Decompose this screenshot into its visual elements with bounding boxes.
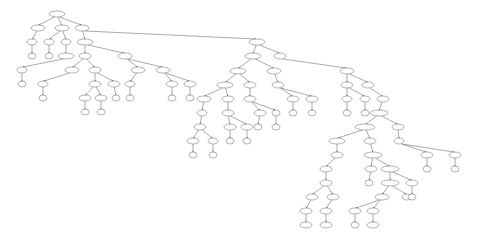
tree-edge (253, 45, 256, 53)
tree-edge (371, 144, 373, 152)
tree-node (244, 82, 256, 88)
tree-node (45, 53, 53, 59)
tree-edge (338, 130, 362, 138)
node-ellipse (254, 124, 262, 130)
tree-node (381, 180, 399, 186)
node-ellipse (224, 124, 236, 130)
node-ellipse (244, 96, 256, 102)
node-ellipse (355, 124, 375, 130)
tree-node (79, 95, 91, 101)
node-ellipse (254, 110, 266, 116)
tree-node (108, 81, 120, 87)
tree-node (377, 96, 389, 102)
tree-node (77, 39, 93, 45)
tree-edge (228, 116, 229, 124)
node-ellipse (408, 194, 416, 200)
tree-edge (253, 102, 275, 110)
tree-node (208, 138, 218, 144)
tree-node (222, 96, 234, 102)
tree-edge (193, 130, 198, 138)
tree-node (287, 96, 299, 102)
tree-edge (239, 59, 251, 68)
tree-edge (165, 73, 172, 81)
tree-edge (258, 116, 259, 124)
node-ellipse (166, 81, 178, 87)
tree-edge (230, 116, 246, 124)
node-ellipse (79, 53, 91, 59)
node-ellipse (392, 124, 404, 130)
tree-edge (392, 186, 406, 194)
node-ellipse (421, 152, 433, 158)
node-ellipse (360, 96, 370, 102)
tree-edge (63, 31, 66, 39)
tree-node (341, 82, 353, 88)
node-ellipse (300, 222, 312, 228)
node-ellipse (187, 138, 199, 144)
tree-node (89, 67, 101, 73)
node-ellipse (306, 96, 318, 102)
tree-node (58, 53, 74, 59)
tree-node (308, 110, 316, 116)
tree-node (365, 166, 377, 172)
tree-node (217, 82, 233, 88)
node-ellipse (327, 194, 339, 200)
tree-node (342, 96, 352, 102)
node-ellipse (75, 25, 89, 31)
tree-node (118, 53, 132, 59)
tree-edge (255, 59, 273, 68)
tree-node (340, 68, 354, 74)
tree-node (274, 53, 286, 59)
node-ellipse (31, 25, 45, 31)
node-ellipse (58, 53, 74, 59)
tree-node (355, 124, 375, 130)
tree-edge (200, 116, 201, 124)
node-ellipse (329, 138, 345, 144)
tree-edge (226, 74, 236, 82)
node-ellipse (362, 82, 374, 88)
tree-edge (60, 17, 82, 25)
node-ellipse (168, 95, 176, 101)
node-ellipse (365, 166, 377, 172)
tree-edge (402, 144, 426, 152)
tree-edge (306, 200, 310, 208)
tree-edge (128, 59, 162, 67)
tree-edge (369, 172, 370, 180)
tree-edge (205, 88, 223, 96)
tree-node (320, 208, 332, 214)
tree-node (289, 110, 297, 116)
node-ellipse (38, 81, 48, 87)
node-ellipse (217, 82, 233, 88)
tree-edge (44, 73, 69, 81)
tree-node (197, 96, 211, 102)
tree-edge (73, 59, 83, 67)
tree-edge (202, 130, 212, 138)
node-ellipse (367, 208, 379, 214)
node-ellipse (406, 180, 418, 186)
node-ellipse (89, 67, 101, 73)
tree-edge (87, 59, 95, 67)
tree-node (306, 96, 318, 102)
tree-edge (313, 186, 324, 194)
tree-edge (130, 73, 136, 81)
node-ellipse (349, 208, 361, 214)
node-ellipse (17, 67, 27, 73)
tree-edge (86, 87, 94, 95)
tree-edge (366, 116, 377, 124)
tree-edge (349, 74, 367, 82)
node-ellipse (361, 110, 369, 116)
node-ellipse (194, 124, 206, 130)
node-ellipse (351, 222, 359, 228)
tree-node (451, 166, 459, 172)
node-ellipse (45, 53, 53, 59)
tree-node (320, 222, 332, 228)
node-ellipse (44, 39, 54, 45)
tree-node (126, 95, 134, 101)
tree-node (166, 81, 178, 87)
tree-edge (374, 200, 381, 208)
tree-node (351, 222, 359, 228)
tree-node (38, 81, 48, 87)
node-ellipse (394, 138, 404, 144)
tree-node (226, 138, 234, 144)
node-ellipse (381, 180, 399, 186)
node-ellipse (125, 81, 135, 87)
